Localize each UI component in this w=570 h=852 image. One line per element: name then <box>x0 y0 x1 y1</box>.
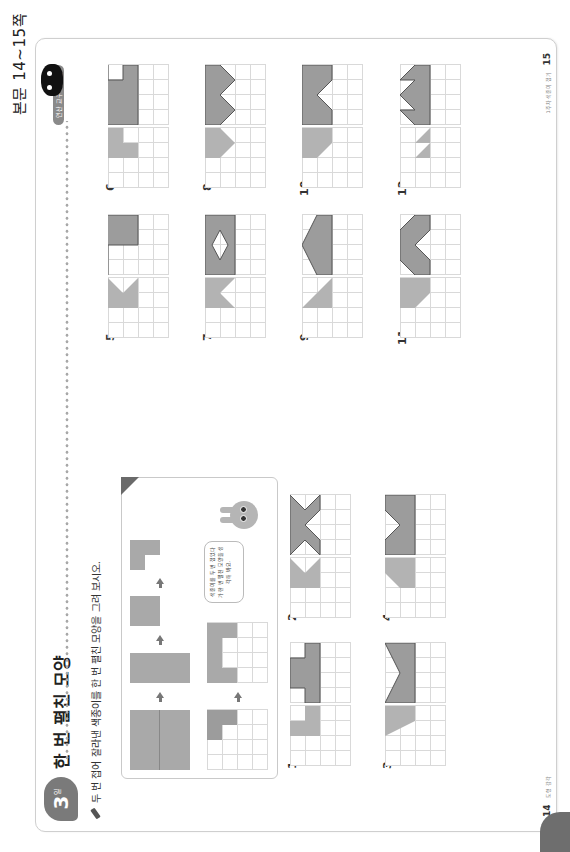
example-paper-cut <box>130 596 160 626</box>
day-badge: 3 일 <box>44 777 78 821</box>
rabbit-mascot-icon <box>220 497 260 533</box>
pencil-icon <box>90 808 100 820</box>
example-paper-full <box>130 710 190 770</box>
problem-4-folded-grid <box>385 557 446 618</box>
instruction: 두 번 접어 잘라낸 색종이를 한 번 펼친 모양을 그려 보시오. <box>88 561 103 819</box>
problem-5-answer-grid[interactable] <box>108 214 169 275</box>
example-result-shape <box>130 540 160 570</box>
problem-6-answer-grid[interactable] <box>108 64 169 125</box>
page-fold-icon <box>121 477 139 495</box>
arrow-right-icon <box>156 578 164 584</box>
page-title: 한 번 펼친 모양 <box>48 655 73 769</box>
example-grid-folded <box>207 709 268 770</box>
problem-8-answer-grid[interactable] <box>205 64 266 125</box>
footer-right: 1주차 색종이 접기 15 <box>542 53 552 117</box>
example-grid-unfolded <box>207 622 268 683</box>
problem-3-answer-grid[interactable] <box>385 642 446 703</box>
dotted-divider <box>65 121 69 761</box>
problem-3-folded-grid <box>385 705 446 766</box>
problem-11-answer-grid[interactable] <box>400 214 461 275</box>
problem-10-folded-grid <box>302 127 363 188</box>
example-box: 색종이를 두 번 접었다가 한 번 펼친 모양을 생각해 봐요. <box>121 477 278 779</box>
day-number: 3 <box>49 796 73 810</box>
side-decoration <box>540 812 570 852</box>
problem-12-answer-grid[interactable] <box>400 64 461 125</box>
problem-11-folded-grid <box>400 277 461 338</box>
problem-4-answer-grid[interactable] <box>385 494 446 555</box>
day-unit: 일 <box>52 789 62 795</box>
problem-2-answer-grid[interactable] <box>290 494 351 555</box>
page-number-right: 15 <box>542 53 552 66</box>
page-reference-label: 본문 14~15쪽 <box>8 13 29 115</box>
worksheet-card: 3 일 한 번 펼친 모양 연산 교구 가는편 두 번 접어 잘라낸 색종이를 … <box>35 38 557 832</box>
problem-5-folded-grid <box>108 277 169 338</box>
problem-1-folded-grid <box>290 705 351 766</box>
instruction-text: 두 번 접어 잘라낸 색종이를 한 번 펼친 모양을 그려 보시오. <box>88 561 103 803</box>
speech-bubble: 색종이를 두 번 접었다가 한 번 펼친 모양을 생각해 봐요. <box>204 541 244 603</box>
problem-12-folded-grid <box>400 127 461 188</box>
problem-7-answer-grid[interactable] <box>205 214 266 275</box>
fold-line <box>159 710 160 770</box>
footer-left-label: 도형 감각 <box>545 776 551 798</box>
problem-6-folded-grid <box>108 127 169 188</box>
arrow-right-icon <box>156 635 164 641</box>
footer-right-label: 1주차 색종이 접기 <box>545 72 551 113</box>
arrow-right-icon <box>156 692 164 698</box>
problem-9-folded-grid <box>302 277 363 338</box>
arrow-right-icon <box>234 692 242 698</box>
mascot-icon <box>41 64 63 96</box>
problem-2-folded-grid <box>290 557 351 618</box>
problem-9-answer-grid[interactable] <box>302 214 363 275</box>
footer-left: 14 도형 감각 <box>542 772 552 817</box>
problem-1-answer-grid[interactable] <box>290 642 351 703</box>
example-paper-half <box>130 653 190 683</box>
problem-7-folded-grid <box>205 277 266 338</box>
problem-8-folded-grid <box>205 127 266 188</box>
problem-10-answer-grid[interactable] <box>302 64 363 125</box>
